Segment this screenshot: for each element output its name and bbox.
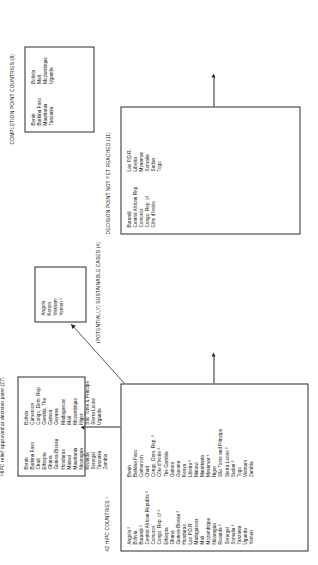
caption-not-yet-reached: DECISION POINT NOT YET REACHED (11) <box>106 106 112 234</box>
arrow-decision-to-completion-head <box>211 73 215 77</box>
diagram-canvas: 42 HIPC COUNTRIES ¹ Angola ²BoliviaBurun… <box>2 0 318 565</box>
caption-decision-point-approved: HIPC relief approved at decision point (… <box>0 376 6 476</box>
arrow-decision-to-completion-line <box>214 76 215 106</box>
column-2: BoliviaMaliMozambiqueUganda <box>31 57 89 84</box>
column-1: BeninBurkina FasoMauritaniaTanzania <box>31 97 89 125</box>
column-2: BeninBurkina FasoCameroonChadCongo, Dem.… <box>127 428 303 476</box>
country-item: Zambia <box>103 438 109 469</box>
arrow-all-to-decision-line <box>214 355 215 383</box>
box-decision-point-approved: BeninBurkina FasoChadEthiopiaGhanaGuinea… <box>18 376 86 476</box>
column-2: Lao P.D.R.LiberiaMyanmarSomaliaSudanTogo <box>127 149 295 171</box>
arrow-all-to-not-reached-head <box>81 425 85 429</box>
country-item: Zambia <box>248 428 254 476</box>
country-item: Yemen <box>248 491 254 544</box>
arrow-all-to-not-reached-line <box>86 426 121 427</box>
box-completion-columns: BeninBurkina FasoMauritaniaTanzania Boli… <box>26 47 94 131</box>
arrow-all-to-sustainable <box>68 321 126 383</box>
country-item: Uganda <box>49 57 55 84</box>
arrow-all-to-decision-head <box>211 352 215 356</box>
box-sustainable-columns: AngolaKenyaVietnamYemen ² <box>36 267 86 321</box>
box-sustainable-cases: AngolaKenyaVietnamYemen ² <box>35 266 87 322</box>
box-all-hipc-countries: Angola ²BoliviaBurundi ²Central African … <box>121 383 309 551</box>
box-not-yet-reached-columns: BurundiCentral African Rep.ComorosCongo,… <box>122 107 300 233</box>
column-1: AngolaKenyaVietnamYemen ² <box>41 298 81 315</box>
caption-completion-point-countries: COMPLETION POINT COUNTRIES (8) <box>10 32 16 144</box>
column-2: BoliviaCameroonCongo, Dem. Rep.Gambia, T… <box>24 380 80 424</box>
box-decision-columns: BeninBurkina FasoChadEthiopiaGhanaGuinea… <box>19 377 85 475</box>
country-item: Uganda <box>97 380 103 424</box>
country-item: Togo <box>157 149 163 171</box>
column-1: BeninBurkina FasoChadEthiopiaGhanaGuinea… <box>24 438 80 469</box>
box-all-hipc-columns: Angola ²BoliviaBurundi ²Central African … <box>122 384 308 550</box>
country-item: Yemen ² <box>59 298 65 315</box>
column-1: Angola ²BoliviaBurundi ²Central African … <box>127 491 303 544</box>
box-completion-point-countries: BeninBurkina FasoMauritaniaTanzania Boli… <box>25 46 95 132</box>
column-1: BurundiCentral African Rep.ComorosCongo,… <box>127 185 295 227</box>
box-not-yet-reached: BurundiCentral African Rep.ComorosCongo,… <box>121 106 301 234</box>
country-item: Côte d'Ivoire <box>151 185 157 227</box>
country-item: Tanzania <box>49 97 55 125</box>
